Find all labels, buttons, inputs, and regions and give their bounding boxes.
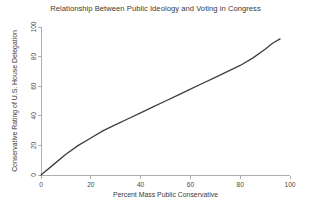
y-tick-label: 80 (30, 53, 37, 61)
y-axis-ticks (38, 27, 42, 175)
x-tick-label: 40 (137, 181, 145, 188)
y-tick-label: 40 (30, 112, 37, 120)
y-tick-label: 60 (30, 82, 37, 90)
y-tick-label: 0 (30, 173, 37, 177)
x-axis-title: Percent Mass Public Conservative (113, 191, 218, 198)
x-tick-label: 60 (187, 181, 195, 188)
x-tick-label: 80 (237, 181, 245, 188)
x-tick-label: 20 (87, 181, 95, 188)
x-tick-label: 0 (39, 181, 43, 188)
x-tick-label: 100 (284, 181, 295, 188)
y-tick-label: 100 (30, 21, 37, 32)
data-line-series-0 (41, 39, 280, 175)
chart-container: Relationship Between Public Ideology and… (0, 0, 311, 210)
x-axis-ticks (41, 176, 290, 180)
x-axis-tick-labels: 020406080100 (39, 181, 296, 188)
y-tick-label: 20 (30, 141, 37, 149)
y-axis-title: Conservative Rating of U.S. House Delega… (11, 30, 19, 172)
plot-area: 020406080100 020406080100 Percent Mass P… (0, 0, 311, 210)
y-axis-tick-labels: 020406080100 (30, 21, 37, 177)
